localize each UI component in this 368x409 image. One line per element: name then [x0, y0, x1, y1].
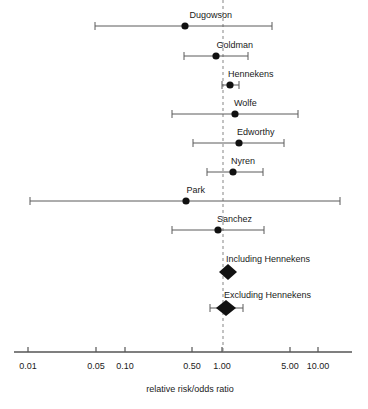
- point-estimate-marker: [214, 226, 221, 233]
- x-axis-title: relative risk/odds ratio: [146, 384, 234, 394]
- point-estimate-marker: [235, 139, 242, 146]
- x-axis-tick-label: 0.01: [19, 361, 37, 371]
- x-axis-tick-label: 0.10: [116, 361, 134, 371]
- study-label: Goldman: [216, 40, 253, 50]
- forest-plot: DugowsonGoldmanHennekensWolfeEdworthyNyr…: [0, 0, 368, 409]
- x-axis-tick-label: 5.00: [281, 361, 299, 371]
- point-estimate-marker: [182, 197, 189, 204]
- study-label: Dugowson: [189, 10, 232, 20]
- x-axis-tick-label: 0.50: [183, 361, 201, 371]
- point-estimate-marker: [212, 52, 219, 59]
- study-label: Edworthy: [237, 127, 275, 137]
- study-label: Hennekens: [228, 69, 274, 79]
- point-estimate-marker: [231, 110, 238, 117]
- study-label: Wolfe: [234, 98, 257, 108]
- x-axis-tick-label: 0.05: [87, 361, 105, 371]
- plot-background: [0, 0, 368, 409]
- point-estimate-marker: [181, 22, 188, 29]
- x-axis-tick-label: 10.00: [307, 361, 330, 371]
- study-label: Park: [186, 185, 205, 195]
- summary-label: Excluding Hennekens: [224, 290, 312, 300]
- x-axis-tick-label: 1.00: [213, 361, 231, 371]
- study-label: Sanchez: [217, 214, 253, 224]
- study-label: Nyren: [231, 156, 255, 166]
- point-estimate-marker: [229, 168, 236, 175]
- summary-label: Including Hennekens: [226, 254, 311, 264]
- point-estimate-marker: [226, 81, 233, 88]
